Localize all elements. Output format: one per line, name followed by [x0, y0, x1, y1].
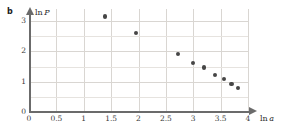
x-tick-label: 0.5	[50, 115, 62, 123]
x-tick-label: 1.5	[105, 115, 117, 123]
data-point	[236, 86, 240, 90]
y-axis-title: ln P	[35, 9, 50, 17]
gridline-horizontal-minor	[29, 97, 248, 98]
x-axis-title: ln a	[260, 115, 274, 123]
x-tick-label: 0	[27, 115, 32, 123]
x-tick-label: 2.5	[160, 115, 172, 123]
x-axis-line	[29, 111, 251, 113]
y-axis-arrow-icon	[26, 7, 34, 15]
x-tick-label: 2	[136, 115, 141, 123]
plot-area	[29, 9, 248, 112]
x-tick-label: 4	[246, 115, 251, 123]
data-point	[202, 65, 206, 69]
x-axis-title-var: a	[268, 114, 274, 123]
x-tick-label: 3.5	[215, 115, 227, 123]
data-point	[229, 82, 233, 86]
x-axis-title-ln: ln	[260, 114, 268, 123]
scatter-chart-figure: b 00.511.522.533.54 0123 ln P ln a	[0, 0, 282, 134]
x-tick-label: 3	[191, 115, 196, 123]
data-point	[134, 31, 138, 35]
y-tick-label: 0	[21, 108, 29, 116]
gridline-vertical	[248, 9, 249, 112]
data-point	[103, 14, 107, 18]
x-tick-label: 1	[81, 115, 86, 123]
gridline-horizontal-minor	[29, 67, 248, 68]
y-tick-label: 1	[21, 78, 29, 86]
y-axis-line	[29, 14, 31, 112]
data-point	[213, 73, 217, 77]
y-axis-title-var: P	[43, 8, 50, 17]
y-tick-label: 2	[21, 48, 29, 56]
gridline-horizontal	[29, 51, 248, 52]
y-tick-label: 3	[21, 17, 29, 25]
y-axis-title-ln: ln	[35, 8, 43, 17]
panel-label-b: b	[7, 8, 13, 16]
gridline-horizontal-minor	[29, 36, 248, 37]
data-point	[191, 61, 195, 65]
gridline-horizontal	[29, 21, 248, 22]
data-point	[176, 52, 180, 56]
gridline-horizontal	[29, 82, 248, 83]
